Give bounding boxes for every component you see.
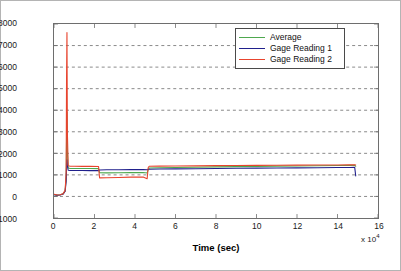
- y-tick-value: 4000: [0, 106, 17, 115]
- chart-legend: AverageGage Reading 1Gage Reading 2: [235, 28, 345, 69]
- x-axis-title: Time (sec): [193, 242, 240, 253]
- y-tick-value: 2000: [0, 149, 17, 158]
- legend-label: Gage Reading 2: [270, 55, 332, 64]
- y-tick-label-1: 0: [0, 197, 17, 206]
- legend-color-swatch: [239, 59, 265, 60]
- legend-label: Gage Reading 1: [270, 44, 332, 53]
- x-tick-label-2: 4: [120, 222, 150, 231]
- y-tick-value: 0: [0, 193, 17, 202]
- legend-item-0[interactable]: Average: [239, 32, 340, 43]
- y-tick-value: 6000: [0, 62, 17, 71]
- y-tick-label-4: 3000: [0, 132, 17, 141]
- y-tick-label-0: -1000: [0, 219, 17, 228]
- y-tick-value: 3000: [0, 128, 17, 137]
- y-tick-label-5: 4000: [0, 110, 17, 119]
- x-tick-label-0: 0: [38, 222, 68, 231]
- x-tick-label-1: 2: [79, 222, 109, 231]
- x-tick-label-6: 12: [283, 222, 313, 231]
- x-axis-multiplier-exponent: 4: [376, 233, 379, 239]
- x-axis-multiplier-base: x 10: [361, 235, 376, 244]
- legend-item-1[interactable]: Gage Reading 1: [239, 43, 340, 54]
- y-tick-value: -1000: [0, 215, 17, 224]
- x-tick-label-8: 16: [364, 222, 394, 231]
- y-tick-value: 1000: [0, 171, 17, 180]
- y-tick-label-8: 7000: [0, 45, 17, 54]
- x-tick-label-4: 8: [201, 222, 231, 231]
- y-tick-value: 7000: [0, 41, 17, 50]
- x-tick-label-7: 14: [323, 222, 353, 231]
- legend-color-swatch: [239, 37, 265, 38]
- x-tick-label-5: 10: [242, 222, 272, 231]
- series-line-0: [54, 112, 356, 195]
- x-axis-multiplier: x 104: [361, 233, 379, 244]
- x-tick-label-3: 6: [160, 222, 190, 231]
- y-tick-value: 8000: [0, 19, 17, 28]
- y-tick-label-7: 6000: [0, 67, 17, 76]
- chart-figure: uStrain Time (sec) x 104 -10000100020003…: [0, 0, 401, 271]
- legend-color-swatch: [239, 48, 265, 49]
- y-tick-label-2: 1000: [0, 175, 17, 184]
- y-tick-label-9: 8000: [0, 23, 17, 32]
- y-tick-value: 5000: [0, 84, 17, 93]
- legend-item-2[interactable]: Gage Reading 2: [239, 54, 340, 65]
- y-tick-label-3: 2000: [0, 154, 17, 163]
- y-tick-label-6: 5000: [0, 88, 17, 97]
- legend-label: Average: [270, 33, 302, 42]
